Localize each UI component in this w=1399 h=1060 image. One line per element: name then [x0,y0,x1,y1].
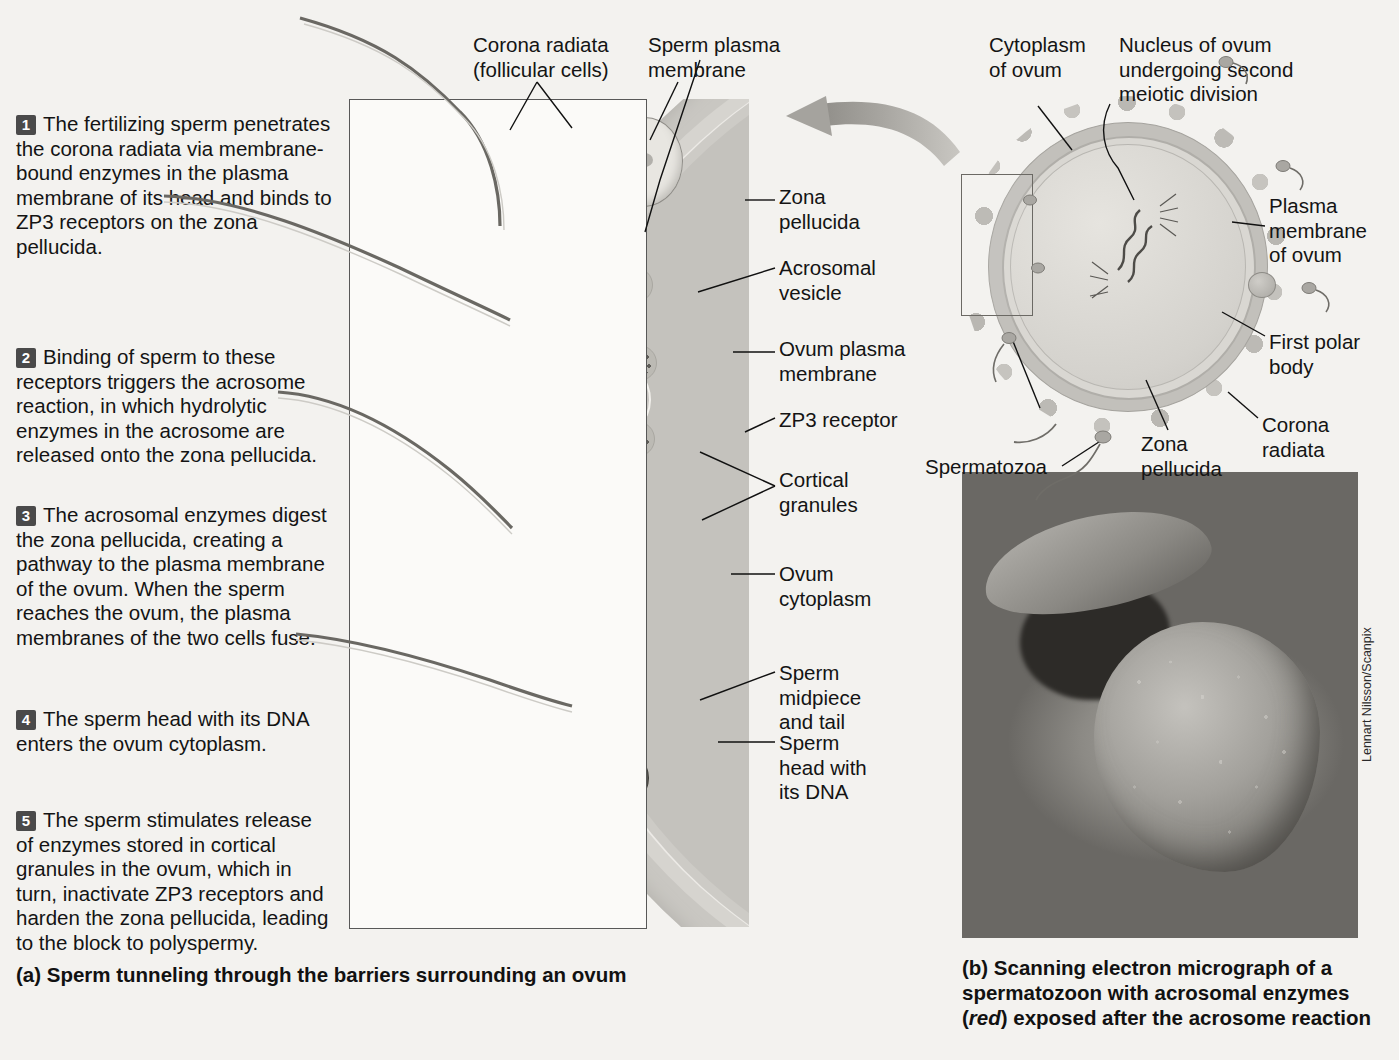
panel-b-caption: (b) Scanning electron micrograph of a sp… [962,955,1392,1030]
label-zona-pellucida-b: Zona pellucida [1141,432,1222,481]
label-nucleus-of-ovum: Nucleus of ovum undergoing second meioti… [1119,33,1293,107]
photo-credit: Lennart Nilsson/Scanpix [1360,627,1374,762]
step-4: 4The sperm head with its DNA enters the … [16,707,334,756]
label-ovum-plasma-membrane: Ovum plasma membrane [779,337,905,386]
label-sperm-plasma-membrane: Sperm plasma membrane [648,33,780,82]
step-1-text: The fertilizing sperm penetrates the cor… [16,112,332,258]
ovum-overview-diagram [962,96,1292,436]
step-5: 5The sperm stimulates release of enzymes… [16,808,334,956]
panel-b-caption-line1: (b) Scanning electron micrograph of a [962,956,1332,979]
panel-b-caption-line3-pre: ( [962,1006,969,1029]
panel-b-caption-red: red [969,1006,1001,1029]
label-plasma-membrane-of-ovum: Plasma membrane of ovum [1269,194,1367,268]
step-4-text: The sperm head with its DNA enters the o… [16,707,308,755]
micrograph-texture [1094,622,1320,872]
electron-micrograph [962,472,1358,938]
step-4-number: 4 [16,710,36,730]
label-cytoplasm-of-ovum: Cytoplasm of ovum [989,33,1086,82]
label-first-polar-body: First polar body [1269,330,1360,379]
label-corona-radiata: Corona radiata (follicular cells) [473,33,609,82]
panel-b-caption-line2: spermatozoon with acrosomal enzymes [962,981,1349,1004]
label-sperm-head-with-dna: Sperm head with its DNA [779,731,867,805]
label-corona-radiata-b: Corona radiata [1262,413,1329,462]
step-3-text: The acrosomal enzymes digest the zona pe… [16,503,327,649]
label-cortical-granules: Cortical granules [779,468,858,517]
label-zona-pellucida-a: Zona pellucida [779,185,860,234]
step-3: 3The acrosomal enzymes digest the zona p… [16,503,334,651]
panel-a-frame [349,99,647,929]
step-2-text: Binding of sperm to these receptors trig… [16,345,317,466]
label-spermatozoa: Spermatozoa [925,455,1047,480]
step-5-number: 5 [16,811,36,831]
label-acrosomal-vesicle: Acrosomal vesicle [779,256,876,305]
label-zp3-receptor: ZP3 receptor [779,408,898,433]
step-5-text: The sperm stimulates release of enzymes … [16,808,328,954]
step-3-number: 3 [16,506,36,526]
step-1-number: 1 [16,115,36,135]
label-sperm-midpiece-and-tail: Sperm midpiece and tail [779,661,861,735]
step-1: 1The fertilizing sperm penetrates the co… [16,112,334,260]
ovum-cytoplasm-region [1010,144,1246,390]
first-polar-body [1248,272,1276,298]
step-2-number: 2 [16,348,36,368]
magnification-inset-box [961,174,1033,316]
micrograph-sperm-head [1094,622,1320,872]
step-2: 2Binding of sperm to these receptors tri… [16,345,334,468]
figure-root: 1The fertilizing sperm penetrates the co… [0,0,1399,1060]
magnification-arrow [786,96,960,166]
panel-b-caption-line3-post: ) exposed after the acrosome reaction [1001,1006,1371,1029]
label-ovum-cytoplasm: Ovum cytoplasm [779,562,871,611]
panel-a-caption: (a) Sperm tunneling through the barriers… [16,962,626,987]
